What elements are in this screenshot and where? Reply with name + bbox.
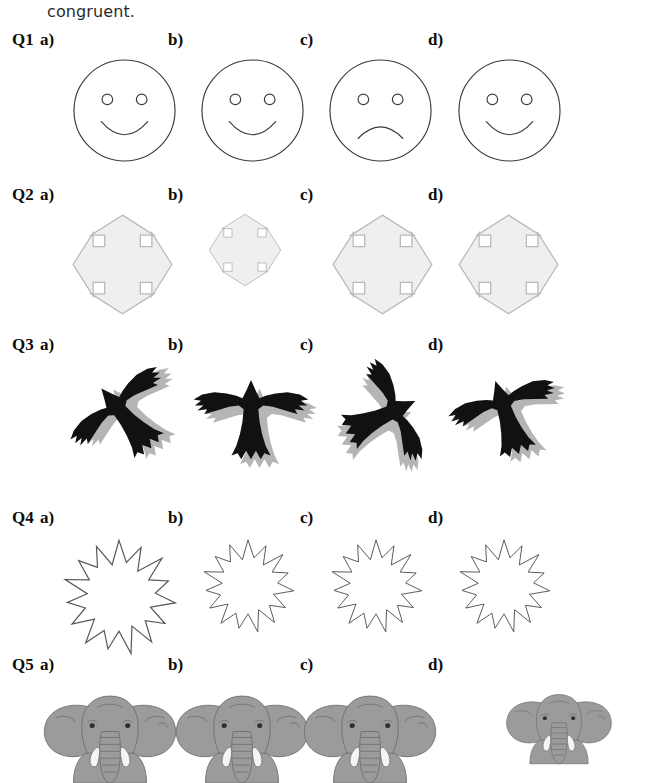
- option-label-q3-d[interactable]: d): [428, 335, 443, 355]
- option-label-q3-b[interactable]: b): [168, 335, 183, 355]
- bird-silhouette-d[interactable]: [448, 358, 566, 476]
- option-label-q5-a[interactable]: a): [40, 655, 54, 675]
- bird-silhouette-a[interactable]: [66, 358, 186, 478]
- option-label-q5-b[interactable]: b): [168, 655, 183, 675]
- starburst-d[interactable]: [456, 538, 552, 634]
- four-way-arrow-a[interactable]: [70, 212, 175, 317]
- elephant-c[interactable]: [296, 688, 444, 783]
- option-label-q1-c[interactable]: c): [300, 30, 313, 50]
- option-label-q4-c[interactable]: c): [300, 508, 313, 528]
- four-way-arrow-d[interactable]: [456, 212, 561, 317]
- question-label-q1: Q1: [12, 30, 34, 50]
- option-label-q5-c[interactable]: c): [300, 655, 313, 675]
- option-label-q4-a[interactable]: a): [40, 508, 54, 528]
- question-label-q5: Q5: [12, 655, 34, 675]
- option-label-q3-a[interactable]: a): [40, 335, 54, 355]
- smiley-face-a[interactable]: [72, 58, 177, 163]
- bird-silhouette-b[interactable]: [190, 358, 312, 480]
- smiley-face-d[interactable]: [457, 58, 562, 163]
- option-label-q3-c[interactable]: c): [300, 335, 313, 355]
- question-label-q2: Q2: [12, 185, 34, 205]
- option-label-q2-d[interactable]: d): [428, 185, 443, 205]
- elephant-a[interactable]: [36, 688, 184, 783]
- option-label-q2-c[interactable]: c): [300, 185, 313, 205]
- elephant-b[interactable]: [168, 688, 316, 783]
- bird-silhouette-c[interactable]: [322, 358, 440, 476]
- option-label-q4-d[interactable]: d): [428, 508, 443, 528]
- question-label-q3: Q3: [12, 335, 34, 355]
- four-way-arrow-b[interactable]: [207, 212, 283, 288]
- option-label-q1-a[interactable]: a): [40, 30, 54, 50]
- option-label-q2-b[interactable]: b): [168, 185, 183, 205]
- option-label-q1-b[interactable]: b): [168, 30, 183, 50]
- smiley-face-b[interactable]: [200, 58, 305, 163]
- option-label-q2-a[interactable]: a): [40, 185, 54, 205]
- option-label-q1-d[interactable]: d): [428, 30, 443, 50]
- question-label-q4: Q4: [12, 508, 34, 528]
- starburst-a[interactable]: [60, 538, 178, 656]
- option-label-q4-b[interactable]: b): [168, 508, 183, 528]
- four-way-arrow-c[interactable]: [330, 212, 435, 317]
- option-label-q5-d[interactable]: d): [428, 655, 443, 675]
- starburst-b[interactable]: [200, 538, 296, 634]
- elephant-d[interactable]: [500, 688, 618, 764]
- starburst-c[interactable]: [328, 538, 424, 634]
- frowny-face-c[interactable]: [328, 58, 433, 163]
- continued-text: congruent.: [47, 2, 135, 21]
